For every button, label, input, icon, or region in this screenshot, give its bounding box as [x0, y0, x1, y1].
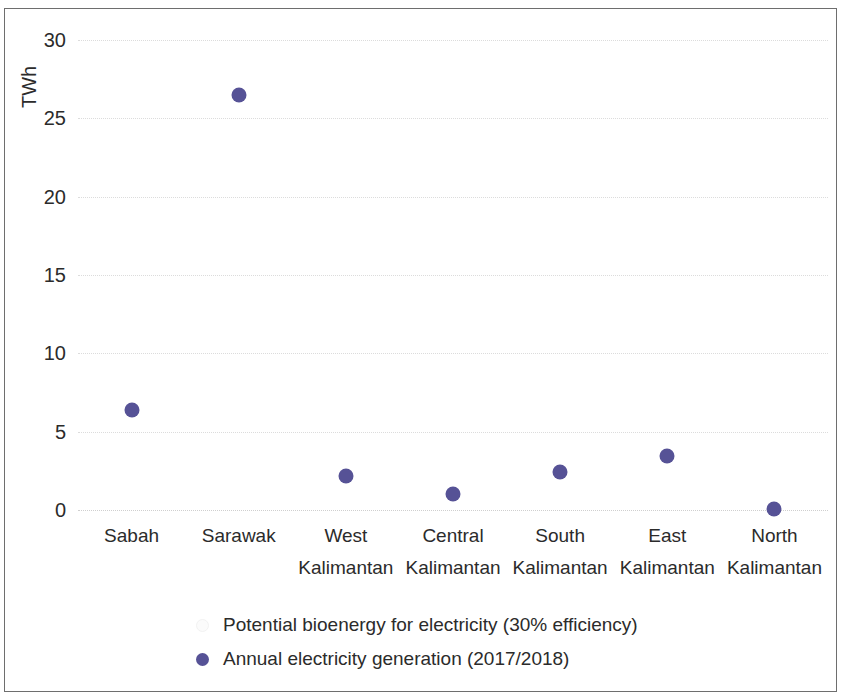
legend-swatch-icon-bar	[196, 619, 209, 632]
x-axis-labels: SabahSarawakWestKalimantanCentralKaliman…	[78, 520, 828, 590]
legend-label-annual-generation: Annual electricity generation (2017/2018…	[223, 648, 569, 670]
y-tick-label-25: 25	[20, 107, 66, 130]
gridline-30	[78, 40, 828, 41]
plot-area	[78, 40, 828, 510]
x-axis-label-line1: North	[751, 525, 797, 546]
x-axis-label-line2: Kalimantan	[405, 552, 500, 584]
legend-entry-potential-bioenergy: Potential bioenergy for electricity (30%…	[0, 608, 841, 642]
x-axis-label: SouthKalimantan	[513, 520, 608, 584]
data-point	[446, 487, 461, 502]
chart-figure: 051015202530 TWh SabahSarawakWestKaliman…	[0, 0, 841, 700]
gridline-10	[78, 353, 828, 354]
data-point	[124, 402, 139, 417]
x-axis-label-line2: Kalimantan	[727, 552, 822, 584]
x-axis-label-line1: Sabah	[104, 525, 159, 546]
chart-legend: Potential bioenergy for electricity (30%…	[0, 608, 841, 676]
x-axis-label: Sabah	[104, 520, 159, 552]
gridline-15	[78, 275, 828, 276]
y-tick-label-0: 0	[20, 499, 66, 522]
data-point	[553, 464, 568, 479]
x-axis-label-line1: West	[324, 525, 367, 546]
x-axis-label-line2: Kalimantan	[298, 552, 393, 584]
legend-swatch-icon-circle	[196, 653, 209, 666]
y-axis-title: TWh	[4, 10, 27, 52]
y-tick-label-10: 10	[20, 342, 66, 365]
x-axis-label: CentralKalimantan	[405, 520, 500, 584]
gridline-25	[78, 118, 828, 119]
data-point	[767, 502, 782, 517]
gridline-5	[78, 432, 828, 433]
gridline-0	[78, 510, 828, 511]
data-point	[338, 468, 353, 483]
x-axis-label-line1: Sarawak	[202, 525, 276, 546]
data-point	[231, 87, 246, 102]
y-tick-label-15: 15	[20, 264, 66, 287]
x-axis-label: WestKalimantan	[298, 520, 393, 584]
gridline-20	[78, 197, 828, 198]
x-axis-label-line1: Central	[422, 525, 483, 546]
y-axis-title-text: TWh	[18, 66, 41, 108]
legend-entry-annual-generation: Annual electricity generation (2017/2018…	[0, 642, 841, 676]
y-tick-label-5: 5	[20, 420, 66, 443]
x-axis-label-line2: Kalimantan	[513, 552, 608, 584]
x-axis-label: EastKalimantan	[620, 520, 715, 584]
x-axis-label-line2: Kalimantan	[620, 552, 715, 584]
x-axis-label-line1: South	[535, 525, 585, 546]
data-point	[660, 448, 675, 463]
x-axis-label: Sarawak	[202, 520, 276, 552]
x-axis-label: NorthKalimantan	[727, 520, 822, 584]
y-tick-label-20: 20	[20, 185, 66, 208]
legend-label-potential-bioenergy: Potential bioenergy for electricity (30%…	[223, 614, 638, 636]
x-axis-label-line1: East	[648, 525, 686, 546]
